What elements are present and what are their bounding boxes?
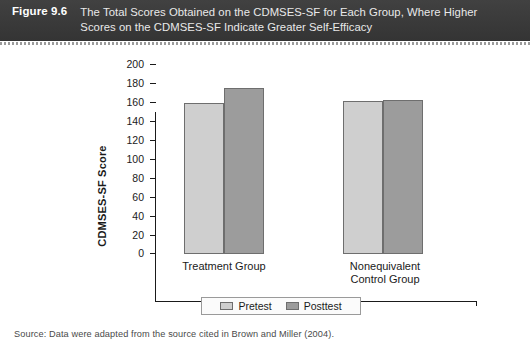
chart-area: CDMSES-SF Score 200 180 160 140 120 100 … [0,48,530,318]
bar-control-posttest[interactable] [383,100,423,254]
figure-number: Figure 9.6 [12,5,67,17]
y-tick-label-60: 60 [104,192,144,202]
y-tick-mark [150,178,156,179]
y-tick-mark [150,253,156,254]
y-tick-mark [150,159,156,160]
y-tick-label-160: 160 [104,97,144,107]
y-tick-label-120: 120 [104,135,144,145]
y-tick-mark [150,216,156,217]
figure-header-content: Figure 9.6 The Total Scores Obtained on … [12,5,520,34]
x-category-label-control-line1: Nonequivalent [325,260,445,274]
y-tick-mark [150,83,156,84]
x-tick-mark [476,301,477,306]
legend-item-posttest[interactable]: Posttest [286,300,342,312]
y-tick-label-180: 180 [104,78,144,88]
y-tick-label-140: 140 [104,116,144,126]
legend-swatch-posttest [286,302,299,310]
y-tick-mark [150,64,156,65]
bar-treatment-pretest[interactable] [184,103,224,254]
perforated-divider [0,42,530,45]
y-tick-label-100: 100 [104,154,144,164]
legend-item-pretest[interactable]: Pretest [220,300,271,312]
legend-label-posttest: Posttest [304,300,342,312]
y-tick-label-0: 0 [104,248,144,258]
y-tick-label-40: 40 [104,211,144,221]
legend-label-pretest: Pretest [238,300,271,312]
y-tick-label-80: 80 [104,173,144,183]
bar-treatment-posttest[interactable] [224,88,264,254]
chart-legend: Pretest Posttest [201,297,361,315]
y-tick-mark [150,140,156,141]
source-note: Source: Data were adapted from the sourc… [14,329,334,339]
legend-swatch-pretest [220,302,233,310]
figure-caption-line2: Scores on the CDMSES-SF Indicate Greater… [80,20,520,35]
y-tick-mark [150,235,156,236]
x-category-label-control-line2: Control Group [325,273,445,287]
y-tick-label-200: 200 [104,59,144,69]
figure-caption-line1: The Total Scores Obtained on the CDMSES-… [80,6,477,18]
x-category-label-treatment: Treatment Group [164,260,284,274]
figure-caption: The Total Scores Obtained on the CDMSES-… [80,5,520,34]
y-tick-mark [150,121,156,122]
y-tick-mark [150,197,156,198]
y-tick-mark [150,102,156,103]
bar-control-pretest[interactable] [343,101,383,254]
y-tick-label-20: 20 [104,230,144,240]
figure-header-band: Figure 9.6 The Total Scores Obtained on … [0,0,530,41]
